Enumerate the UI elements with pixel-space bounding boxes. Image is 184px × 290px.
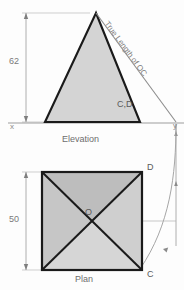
elevation-dimension-arrow-top bbox=[24, 13, 28, 19]
elevation-cd-point-label: C,D bbox=[117, 100, 133, 109]
plan-centre-o-label: O bbox=[85, 208, 92, 217]
projector-arrow-mid bbox=[174, 181, 178, 186]
ground-line-y-label: y bbox=[173, 122, 177, 130]
technical-drawing-canvas: 62 x y C,D True Length of OC Elevation 5… bbox=[0, 0, 184, 290]
elevation-view-label: Elevation bbox=[62, 135, 99, 144]
plan-corner-d-label: D bbox=[147, 163, 154, 172]
ground-line-x-label: x bbox=[10, 123, 14, 131]
plan-dimension-arrow-bottom bbox=[24, 264, 28, 270]
arc-direction-arrow bbox=[163, 248, 168, 253]
drawing-svg bbox=[0, 0, 184, 290]
plan-view-label: Plan bbox=[75, 275, 93, 284]
elevation-height-dimension-label: 62 bbox=[9, 57, 19, 66]
true-length-arc bbox=[140, 124, 176, 269]
plan-corner-c-label: C bbox=[147, 270, 154, 279]
plan-dimension-arrow-top bbox=[24, 172, 28, 178]
elevation-dimension-arrow-bottom bbox=[24, 116, 28, 122]
plan-side-dimension-label: 50 bbox=[9, 215, 19, 224]
